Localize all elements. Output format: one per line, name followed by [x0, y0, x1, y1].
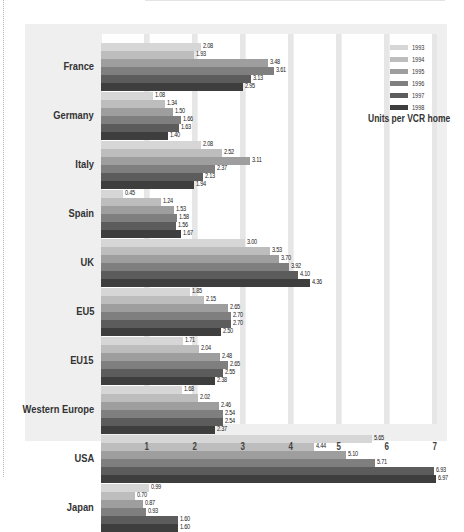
value-label: 2.46 [221, 401, 231, 409]
x-tick-label: 6 [385, 441, 389, 452]
gridline [336, 34, 341, 424]
category-label: USA [74, 452, 94, 464]
value-label: 0.93 [148, 507, 158, 515]
bar [101, 377, 215, 385]
value-label: 0.87 [145, 499, 155, 507]
value-label: 3.53 [272, 246, 282, 254]
bar [101, 435, 372, 443]
page-margin-dotted-line [3, 0, 4, 477]
bar [101, 116, 181, 124]
bar [101, 345, 199, 353]
value-label: 1.71 [185, 336, 195, 344]
bar [101, 410, 223, 418]
bar [101, 369, 223, 377]
value-label: 5.10 [348, 450, 358, 458]
category-label: Germany [53, 109, 94, 121]
value-label: 1.94 [196, 180, 206, 188]
value-label: 2.08 [203, 140, 213, 148]
bar [101, 500, 143, 508]
legend-item: 1996 [390, 78, 450, 90]
value-label: 2.02 [200, 393, 210, 401]
value-label: 4.10 [300, 270, 310, 278]
value-label: 2.65 [230, 360, 240, 368]
legend-swatch [390, 45, 408, 50]
x-tick-label: 7 [433, 441, 437, 452]
bar [101, 173, 203, 181]
value-label: 2.37 [217, 425, 227, 433]
bar [101, 214, 177, 222]
value-label: 2.54 [225, 409, 235, 417]
value-label: 0.70 [137, 491, 147, 499]
legend-swatch [390, 69, 408, 74]
value-label: 1.24 [163, 197, 173, 205]
bar [101, 124, 179, 132]
value-label: 1.85 [192, 287, 202, 295]
bar [101, 328, 221, 336]
value-label: 2.70 [233, 311, 243, 319]
category-label: UK [80, 256, 94, 268]
gridline [240, 34, 245, 424]
legend-label: 1993 [412, 42, 424, 53]
value-label: 5.71 [377, 458, 387, 466]
value-label: 3.70 [281, 254, 291, 262]
legend-label: 1995 [412, 66, 424, 77]
bar [101, 320, 231, 328]
bar [101, 451, 346, 459]
bar [101, 402, 219, 410]
value-label: 1.68 [184, 385, 194, 393]
bar [101, 141, 201, 149]
value-label: 1.58 [179, 213, 189, 221]
x-tick-label: 1 [145, 441, 149, 452]
bar [101, 288, 190, 296]
value-label: 2.50 [223, 327, 233, 335]
value-label: 1.66 [183, 115, 193, 123]
value-label: 0.99 [151, 483, 161, 491]
legend: 199319941995199619971998 [390, 42, 450, 114]
bar [101, 263, 289, 271]
gridline [288, 34, 293, 424]
bar [101, 296, 204, 304]
bar [101, 353, 220, 361]
value-label: 3.13 [253, 74, 263, 82]
bar [101, 443, 314, 451]
value-label: 1.53 [176, 205, 186, 213]
category-label: EU15 [71, 354, 94, 366]
value-label: 2.54 [225, 417, 235, 425]
legend-label: 1997 [412, 90, 424, 101]
legend-label: 1998 [412, 102, 424, 113]
bar [101, 165, 215, 173]
value-label: 1.60 [180, 523, 190, 531]
legend-item: 1994 [390, 54, 450, 66]
value-label: 3.61 [276, 66, 286, 74]
grid-band [342, 34, 384, 424]
x-tick-label: 5 [337, 441, 341, 452]
bar [101, 516, 178, 524]
value-label: 2.37 [217, 164, 227, 172]
bar [101, 361, 228, 369]
bar [101, 59, 268, 67]
legend-label: 1996 [412, 78, 424, 89]
bar [101, 492, 135, 500]
value-label: 1.93 [196, 50, 206, 58]
bar [101, 206, 174, 214]
value-label: 1.63 [181, 123, 191, 131]
legend-swatch [390, 57, 408, 62]
value-label: 2.55 [225, 368, 235, 376]
bar [101, 304, 228, 312]
bar [101, 418, 223, 426]
bar [101, 75, 251, 83]
bar [101, 190, 123, 198]
value-label: 6.97 [438, 474, 448, 482]
gridline [384, 34, 389, 424]
legend-swatch [390, 105, 408, 110]
grid-band [294, 34, 336, 424]
value-label: 4.36 [312, 278, 322, 286]
value-label: 2.48 [222, 352, 232, 360]
value-label: 2.52 [224, 148, 234, 156]
bar [101, 222, 176, 230]
bar [101, 271, 298, 279]
bar [101, 467, 434, 475]
bar [101, 312, 231, 320]
value-label: 1.60 [180, 515, 190, 523]
value-label: 2.65 [230, 303, 240, 311]
